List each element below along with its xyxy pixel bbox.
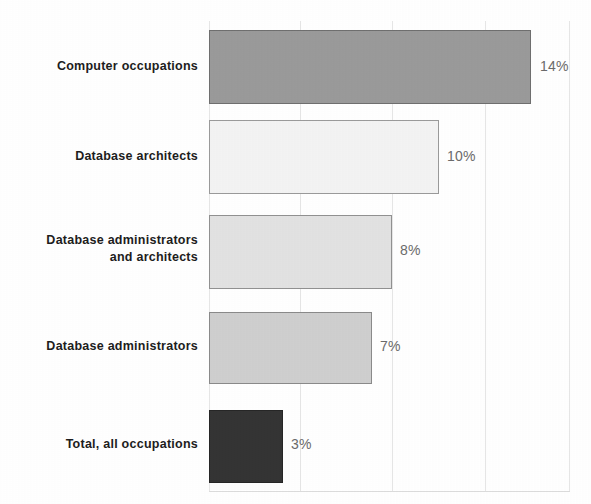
bar-value-label: 14% bbox=[540, 58, 569, 74]
bar-value-label: 8% bbox=[400, 242, 421, 258]
bar-category-label: Database administrators bbox=[0, 338, 198, 355]
bar-rect[interactable] bbox=[209, 312, 372, 384]
bar-rect[interactable] bbox=[209, 215, 392, 289]
bar-category-label: Computer occupations bbox=[0, 58, 198, 75]
bar-value-label: 10% bbox=[447, 148, 476, 164]
bar-row: Total, all occupations 3% bbox=[0, 398, 591, 490]
bar-category-label-line1: Database architects bbox=[75, 149, 198, 163]
bar-rect[interactable] bbox=[209, 30, 531, 104]
bar-category-label-line1: Database administrators bbox=[46, 339, 198, 353]
chart-title-cropped bbox=[120, 0, 500, 5]
bar-chart-figure: Computer occupations 14% Database archit… bbox=[0, 0, 591, 504]
bar-category-label-line2: and architects bbox=[110, 250, 198, 264]
x-axis-line bbox=[209, 491, 570, 492]
bar-category-label-line1: Computer occupations bbox=[57, 59, 198, 73]
bar-value-label: 7% bbox=[380, 338, 401, 354]
bar-category-label: Total, all occupations bbox=[0, 436, 198, 453]
bar-rect[interactable] bbox=[209, 120, 439, 194]
bar-category-label: Database architects bbox=[0, 148, 198, 165]
bar-row: Database architects 10% bbox=[0, 112, 591, 200]
bar-row: Database administrators and architects 8… bbox=[0, 204, 591, 297]
bar-value-label: 3% bbox=[291, 436, 312, 452]
bar-row: Computer occupations 14% bbox=[0, 24, 591, 109]
bar-category-label: Database administrators and architects bbox=[0, 232, 198, 266]
bar-category-label-line1: Database administrators bbox=[46, 233, 198, 247]
bar-rect[interactable] bbox=[209, 410, 283, 483]
bar-category-label-line1: Total, all occupations bbox=[66, 437, 198, 451]
bar-row: Database administrators 7% bbox=[0, 302, 591, 390]
